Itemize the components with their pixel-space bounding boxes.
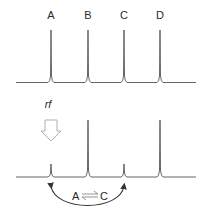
rf-label: rf: [45, 98, 53, 110]
peak-label-d: D: [156, 9, 164, 21]
peak-label-c: C: [120, 9, 128, 21]
diagram-svg: A B C D rf A C: [0, 0, 207, 218]
exchange-right-label: C: [100, 190, 108, 202]
exchange-arc: [51, 186, 124, 206]
bottom-spectrum-trace: [16, 120, 196, 177]
peak-label-a: A: [47, 9, 55, 21]
saturation-transfer-diagram: A B C D rf A C: [0, 0, 207, 218]
exchange-left-label: A: [72, 190, 80, 202]
rf-irradiation-arrow-icon: [41, 120, 61, 141]
peak-label-b: B: [84, 9, 91, 21]
top-spectrum-trace: [16, 30, 196, 83]
equilibrium-arrows-icon: [82, 191, 98, 200]
